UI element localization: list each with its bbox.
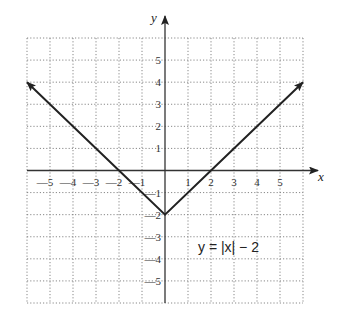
x-tick-label: 1: [185, 176, 191, 188]
x-axis-label: x: [317, 169, 324, 184]
y-axis-label: y: [149, 10, 157, 25]
y-tick-label: —5: [144, 275, 162, 287]
x-tick-label: —3: [82, 176, 100, 188]
x-tick-label: —4: [59, 176, 77, 188]
axes: [27, 16, 318, 303]
x-tick-label: 3: [231, 176, 237, 188]
y-tick-label: 1: [156, 142, 162, 154]
y-tick-label: —3: [144, 231, 162, 243]
y-tick-label: —4: [144, 253, 162, 265]
y-tick-label: 3: [156, 98, 162, 110]
x-tick-label: —5: [36, 176, 54, 188]
y-tick-label: 4: [156, 76, 162, 88]
y-tick-label: —2: [144, 209, 162, 221]
equation-label: y = |x| − 2: [198, 239, 259, 255]
x-tick-label: 5: [277, 176, 283, 188]
y-tick-label: 5: [156, 54, 162, 66]
x-tick-label: 2: [208, 176, 214, 188]
x-tick-label: 4: [254, 176, 260, 188]
x-tick-label: —2: [105, 176, 123, 188]
graph-of-absolute-value-function: —5—4—3—2—11234554321—1—2—3—4—5 x y y = |…: [0, 0, 337, 314]
y-tick-label: 2: [156, 120, 162, 132]
